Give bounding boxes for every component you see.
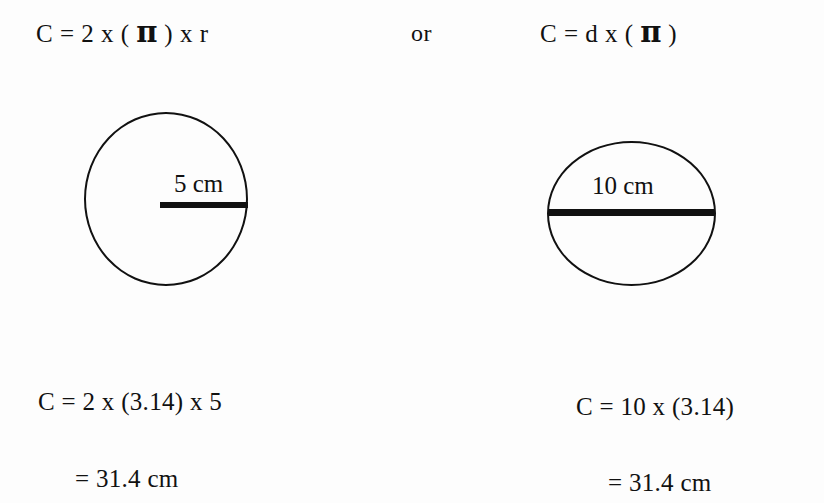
diameter-label: 10 cm xyxy=(592,173,654,198)
solution-left-line1: C = 2 x (3.14) x 5 xyxy=(38,389,222,414)
solution-left-line2: = 31.4 cm xyxy=(75,466,179,491)
circle-outline-icon xyxy=(84,112,248,286)
pi-symbol-icon: π xyxy=(136,15,157,49)
solution-right-line1: C = 10 x (3.14) xyxy=(576,394,734,419)
radius-line-icon xyxy=(160,202,248,208)
formula-diameter-suffix: ) xyxy=(662,20,678,47)
formula-diameter-prefix: C = d x ( xyxy=(540,20,640,47)
solution-right-line2: = 31.4 cm xyxy=(608,470,712,495)
formula-diameter: C = d x ( π ) xyxy=(540,18,677,47)
circumference-worksheet: C = 2 x ( π ) x r or C = d x ( π ) 5 cm … xyxy=(0,0,824,503)
formula-radius: C = 2 x ( π ) x r xyxy=(36,18,209,47)
formula-radius-prefix: C = 2 x ( xyxy=(36,20,136,47)
diameter-line-icon xyxy=(548,209,715,216)
pi-symbol-icon: π xyxy=(640,15,661,49)
formula-conjunction: or xyxy=(411,21,432,45)
radius-label: 5 cm xyxy=(174,171,223,196)
formula-radius-suffix: ) x r xyxy=(158,20,209,47)
